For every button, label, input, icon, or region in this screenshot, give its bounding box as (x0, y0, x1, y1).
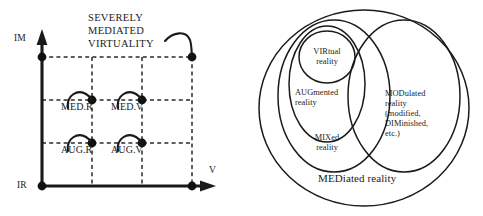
label-augmented-reality-line-1: AUGmented (295, 88, 357, 97)
label-mediated-reality: MEDiated reality (318, 172, 396, 184)
label-virtual-reality-line-2: reality (303, 57, 351, 66)
label-modulated-reality-line-2: reality (385, 99, 449, 108)
label-modulated-reality-line-1: MODulated (385, 89, 449, 98)
label-modulated-reality-line-3: (modified, (385, 109, 449, 118)
label-virtual-reality-line-1: VIRtual (303, 47, 351, 56)
label-modulated-reality-line-4: DIMinished, (385, 119, 449, 128)
label-mixed-reality-line-1: MIXed (305, 133, 349, 142)
label-augmented-reality-line-2: reality (295, 98, 357, 107)
figure-root: SEVERELY MEDIATED VIRTUALITY IM IR V MED… (0, 0, 483, 216)
label-mixed-reality-line-2: reality (305, 143, 349, 152)
label-modulated-reality-line-5: etc.) (385, 129, 449, 138)
circle-augmented-reality (289, 26, 365, 142)
